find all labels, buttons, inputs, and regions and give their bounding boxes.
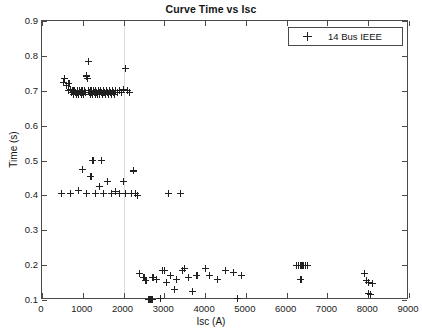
data-point — [99, 91, 106, 98]
data-point — [61, 75, 68, 82]
data-point — [91, 89, 98, 96]
data-point — [83, 190, 90, 197]
x-tick-3000 — [164, 293, 165, 298]
y-tick-right-0.4 — [402, 195, 407, 196]
data-point — [126, 89, 133, 96]
data-point — [103, 87, 110, 94]
data-point — [79, 89, 86, 96]
data-point — [95, 87, 102, 94]
data-point — [185, 274, 192, 281]
data-point — [132, 190, 139, 197]
data-point — [80, 91, 87, 98]
data-point — [104, 178, 111, 185]
data-point — [110, 89, 117, 96]
data-point — [238, 272, 245, 279]
data-point — [214, 276, 221, 283]
data-point — [112, 87, 119, 94]
x-tick-top-5000 — [246, 21, 247, 26]
data-point — [297, 276, 304, 283]
y-tick-0.9 — [42, 21, 47, 22]
data-point — [193, 272, 200, 279]
data-point — [88, 89, 95, 96]
data-point — [89, 157, 96, 164]
data-point — [149, 274, 156, 281]
data-point — [100, 87, 107, 94]
data-point — [140, 274, 147, 281]
data-point — [157, 295, 164, 302]
x-tick-label-4000: 4000 — [194, 303, 215, 314]
data-point — [111, 91, 118, 98]
chart-title: Curve Time vs Isc — [0, 3, 422, 15]
data-point — [124, 87, 131, 94]
y-tick-right-0.8 — [402, 56, 407, 57]
data-point — [90, 87, 97, 94]
data-point — [302, 262, 309, 269]
data-point — [92, 87, 99, 94]
data-point — [299, 262, 306, 269]
x-tick-0 — [42, 293, 43, 298]
data-point — [116, 190, 123, 197]
data-point — [206, 272, 213, 279]
legend-box[interactable]: 14 Bus IEEE — [288, 27, 403, 46]
x-tick-1000 — [83, 293, 84, 298]
data-point — [136, 270, 143, 277]
y-tick-0.3 — [42, 230, 47, 231]
x-tick-9000 — [409, 293, 410, 298]
data-point — [171, 286, 178, 293]
data-point — [93, 89, 100, 96]
x-tick-4000 — [205, 293, 206, 298]
data-point — [75, 187, 82, 194]
data-point — [71, 87, 78, 94]
data-point — [74, 89, 81, 96]
y-tick-label-0.9: 0.9 — [6, 15, 38, 26]
x-tick-top-6000 — [287, 21, 288, 26]
data-point — [153, 276, 160, 283]
x-tick-top-2000 — [124, 21, 125, 26]
x-tick-label-9000: 9000 — [397, 303, 418, 314]
data-point — [98, 89, 105, 96]
data-point — [293, 262, 300, 269]
legend-label-14-bus-ieee: 14 Bus IEEE — [328, 31, 382, 42]
data-point — [83, 73, 90, 80]
data-point — [145, 296, 152, 303]
y-tick-0.4 — [42, 195, 47, 196]
data-point — [77, 89, 84, 96]
data-point — [85, 87, 92, 94]
x-tick-label-2000: 2000 — [112, 303, 133, 314]
data-point — [106, 87, 113, 94]
y-tick-right-0.7 — [402, 91, 407, 92]
data-point — [94, 91, 101, 98]
data-point — [163, 279, 170, 286]
data-point — [145, 296, 152, 303]
data-point — [65, 87, 72, 94]
plot-area — [41, 20, 408, 299]
data-point — [79, 166, 86, 173]
data-point — [102, 91, 109, 98]
data-point — [295, 262, 302, 269]
x-tick-label-8000: 8000 — [357, 303, 378, 314]
data-point — [82, 89, 89, 96]
data-point — [181, 265, 188, 272]
x-axis-title: Isc (A) — [0, 316, 422, 327]
x-tick-label-5000: 5000 — [234, 303, 255, 314]
x-tick-8000 — [368, 293, 369, 298]
data-point — [72, 89, 79, 96]
data-point — [128, 190, 135, 197]
data-point — [361, 270, 368, 277]
data-point — [161, 267, 168, 274]
gridline-x-2000 — [124, 21, 125, 298]
data-point — [142, 277, 149, 284]
data-point — [304, 262, 311, 269]
data-point — [100, 89, 107, 96]
y-tick-right-0.3 — [402, 230, 407, 231]
data-point — [73, 91, 80, 98]
data-point — [74, 87, 81, 94]
data-point — [96, 91, 103, 98]
y-tick-0.6 — [42, 126, 47, 127]
data-point — [85, 58, 92, 65]
data-point — [365, 279, 372, 286]
data-point — [98, 157, 105, 164]
y-tick-label-0.1: 0.1 — [6, 294, 38, 305]
x-tick-top-1000 — [83, 21, 84, 26]
data-point — [165, 190, 172, 197]
